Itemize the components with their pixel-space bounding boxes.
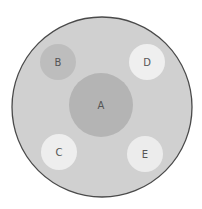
zone-b: B <box>40 44 76 80</box>
zone-d: D <box>129 44 165 80</box>
zone-label: D <box>143 57 151 68</box>
zone-label: C <box>56 147 63 158</box>
zone-label: E <box>142 149 148 160</box>
zone-a: A <box>69 73 133 137</box>
petri-dish-diagram: ABDCE <box>0 0 202 209</box>
zone-label: B <box>55 57 62 68</box>
zone-e: E <box>127 136 163 172</box>
zone-label: A <box>98 100 105 111</box>
zone-c: C <box>41 134 77 170</box>
